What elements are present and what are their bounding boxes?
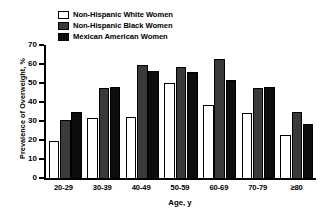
bar[interactable]: [203, 105, 214, 178]
bar-group: [200, 45, 239, 178]
bar[interactable]: [226, 80, 237, 178]
y-axis-tick: 60: [39, 63, 44, 65]
legend-label: Mexican American Women: [73, 32, 168, 41]
y-axis-tick: 20: [39, 139, 44, 141]
x-axis-line: [44, 178, 316, 180]
y-axis-title: Prevalence of Overweight, %: [18, 29, 27, 189]
y-axis-tick: 40: [39, 101, 44, 103]
legend: Non-Hispanic White WomenNon-Hispanic Bla…: [58, 9, 173, 42]
bar[interactable]: [137, 65, 148, 178]
y-axis-tick-label: 10: [28, 154, 37, 163]
bar[interactable]: [264, 87, 275, 178]
x-axis-label: 70-79: [238, 183, 277, 192]
legend-item[interactable]: Mexican American Women: [58, 31, 173, 42]
x-axis-labels: 20-2930-3940-4950-5960-6970-79≥80: [44, 183, 316, 192]
y-axis-tick-label: 30: [28, 116, 37, 125]
y-axis-tick: 70: [39, 44, 44, 46]
bar[interactable]: [49, 141, 60, 178]
chart-figure: Prevalence of Overweight, % 010203040506…: [0, 0, 326, 217]
y-axis-tick-label: 0: [33, 173, 37, 182]
bar[interactable]: [280, 135, 291, 178]
x-axis-label: ≥80: [277, 183, 316, 192]
legend-item[interactable]: Non-Hispanic White Women: [58, 9, 173, 20]
bar[interactable]: [253, 88, 264, 178]
bar[interactable]: [71, 112, 82, 179]
bar[interactable]: [87, 118, 98, 178]
y-axis-tick: 50: [39, 82, 44, 84]
legend-item[interactable]: Non-Hispanic Black Women: [58, 20, 173, 31]
bar-group: [162, 45, 201, 178]
legend-swatch-icon: [58, 22, 69, 30]
bar[interactable]: [60, 120, 71, 178]
x-axis-label: 40-49: [122, 183, 161, 192]
bar[interactable]: [242, 113, 253, 178]
legend-label: Non-Hispanic White Women: [73, 10, 173, 19]
y-axis-tick: 30: [39, 120, 44, 122]
bar[interactable]: [164, 83, 175, 178]
bar[interactable]: [110, 87, 121, 178]
y-axis-tick-label: 50: [28, 78, 37, 87]
y-axis-tick-label: 20: [28, 135, 37, 144]
y-axis-tick-label: 60: [28, 59, 37, 68]
x-axis-label: 30-39: [83, 183, 122, 192]
x-axis-label: 20-29: [44, 183, 83, 192]
y-axis-tick-label: 70: [28, 40, 37, 49]
bar[interactable]: [99, 88, 110, 178]
bar[interactable]: [126, 117, 137, 178]
bar-group: [239, 45, 278, 178]
legend-swatch-icon: [58, 33, 69, 41]
bar[interactable]: [303, 124, 314, 178]
x-axis-label: 60-69: [199, 183, 238, 192]
y-axis-tick: 10: [39, 158, 44, 160]
x-axis-label: 50-59: [161, 183, 200, 192]
y-axis-tick-label: 40: [28, 97, 37, 106]
plot-area: 010203040506070: [44, 45, 316, 180]
bar-group: [46, 45, 85, 178]
bar[interactable]: [176, 67, 187, 178]
bar-group: [277, 45, 316, 178]
bar[interactable]: [148, 71, 159, 178]
legend-label: Non-Hispanic Black Women: [73, 21, 173, 30]
y-axis-tick: 0: [39, 177, 44, 179]
bar-group: [85, 45, 124, 178]
bar-group: [123, 45, 162, 178]
bar[interactable]: [187, 72, 198, 178]
legend-swatch-icon: [58, 11, 69, 19]
bar[interactable]: [292, 112, 303, 179]
x-axis-title: Age, y: [44, 198, 316, 207]
bar[interactable]: [214, 59, 225, 178]
bar-groups: [46, 45, 316, 178]
